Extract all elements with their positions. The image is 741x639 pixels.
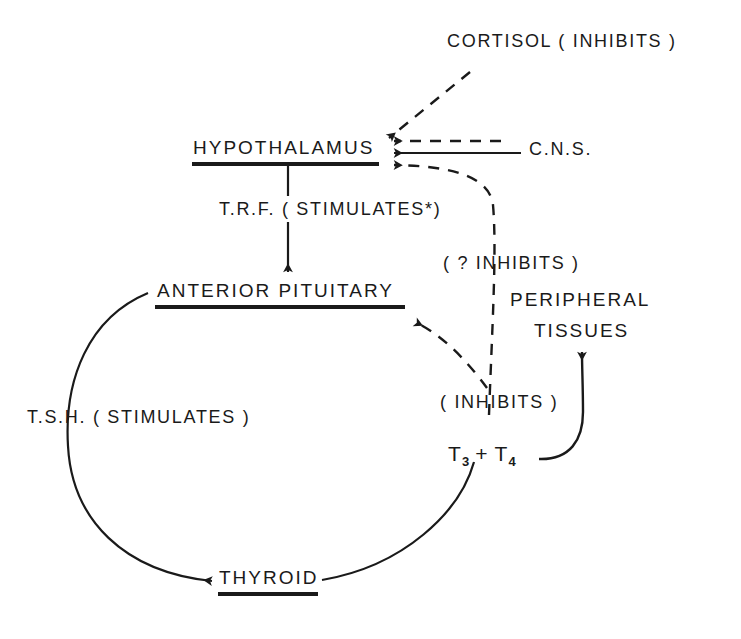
thyroid-underline — [218, 592, 318, 595]
node-peripheral-tissues-line2: TISSUES — [534, 321, 629, 340]
diagram-connectors — [0, 0, 741, 639]
label-tsh: T.S.H. ( STIMULATES ) — [27, 408, 250, 426]
edge-anterior-pituitary-to-thyroid — [68, 293, 212, 581]
plus-symbol: + — [475, 442, 488, 465]
diagram-canvas: CORTISOL ( INHIBITS ) HYPOTHALAMUS C.N.S… — [0, 0, 741, 639]
edge-t3t4-to-anterior-pituitary — [415, 322, 487, 388]
t4-symbol: T — [494, 442, 508, 465]
edge-thyroid-to-t3t4 — [322, 462, 474, 580]
node-t3-t4: T3 + T4 — [448, 443, 516, 468]
t4-subscript: 4 — [508, 454, 515, 469]
t3-symbol: T — [448, 442, 462, 465]
node-hypothalamus: HYPOTHALAMUS — [193, 138, 374, 157]
node-peripheral-tissues-line1: PERIPHERAL — [510, 290, 650, 309]
node-anterior-pituitary: ANTERIOR PITUITARY — [157, 281, 394, 300]
node-cns: C.N.S. — [529, 140, 592, 158]
label-inhibits: ( INHIBITS ) — [440, 393, 558, 411]
label-cortisol: CORTISOL ( INHIBITS ) — [447, 32, 677, 50]
node-thyroid: THYROID — [219, 568, 319, 587]
label-trf: T.R.F. ( STIMULATES*) — [219, 200, 441, 218]
hypothalamus-underline — [192, 162, 379, 165]
anterior-pituitary-underline — [155, 305, 405, 308]
label-question-inhibits: ( ? INHIBITS ) — [443, 254, 580, 272]
edge-cortisol-to-hypothalamus — [389, 72, 470, 138]
